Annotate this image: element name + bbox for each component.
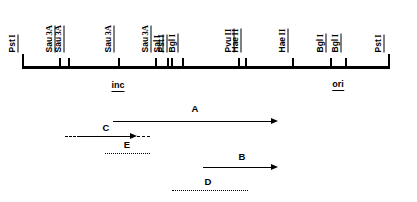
enzyme-numeral: I (315, 33, 325, 38)
enzyme-label: PstI (157, 34, 168, 52)
enzyme-label: BglI (331, 33, 342, 52)
enzyme-numeral: I (7, 34, 17, 39)
restriction-site-tick (22, 54, 24, 69)
enzyme-numeral: 3A (103, 25, 113, 37)
gene-region-label-inc: inc (111, 80, 124, 92)
transcript-label-c: C (103, 123, 110, 133)
transcript-segment-c (80, 136, 131, 137)
restriction-site-tick (167, 58, 169, 69)
enzyme-numeral: I (156, 34, 166, 39)
enzyme-label: PstI (374, 34, 385, 52)
transcript-segment-a (113, 121, 272, 122)
enzyme-numeral: I (167, 33, 177, 38)
restriction-site-tick (388, 54, 390, 69)
restriction-site-tick (68, 58, 70, 69)
enzyme-label: Sau3A (104, 25, 115, 52)
enzyme-numeral: 3A (140, 25, 150, 37)
enzyme-name: Sau (103, 36, 113, 52)
enzyme-label: Sau3A (54, 25, 65, 52)
enzyme-name: Pst (156, 39, 166, 52)
restriction-site-tick (182, 58, 184, 69)
enzyme-name: Pst (7, 39, 17, 52)
restriction-site-tick (238, 58, 240, 69)
restriction-site-tick (155, 58, 157, 69)
transcript-segment-d (172, 190, 248, 191)
transcript-arrowhead-b (271, 164, 278, 170)
enzyme-name: Bgl (330, 38, 340, 52)
transcript-arrowhead-a (271, 118, 278, 124)
restriction-site-tick (118, 58, 120, 69)
enzyme-name: Pst (373, 39, 383, 52)
restriction-site-tick (171, 58, 173, 69)
gene-region-label-ori: ori (332, 79, 344, 91)
enzyme-numeral: 3A (53, 25, 63, 37)
transcript-label-a: A (192, 104, 199, 114)
transcript-segment-c (65, 136, 80, 137)
transcript-arrowhead-c (130, 133, 137, 139)
restriction-map-axis (22, 66, 388, 69)
restriction-site-tick (245, 58, 247, 69)
enzyme-label: HaeII (278, 28, 289, 52)
enzyme-name: Sau (140, 36, 150, 52)
transcript-label-e: E (124, 140, 130, 150)
restriction-site-tick (59, 58, 61, 69)
enzyme-name: Bgl (315, 38, 325, 52)
restriction-site-tick (292, 58, 294, 69)
enzyme-label: PstI (8, 34, 19, 52)
transcript-segment-e (105, 153, 150, 154)
enzyme-name: Bgl (167, 38, 177, 52)
enzyme-numeral: II (277, 28, 287, 36)
enzyme-label: Sau3A (141, 25, 152, 52)
enzyme-numeral: I (373, 34, 383, 39)
enzyme-label: BglI (168, 33, 179, 52)
restriction-site-tick (345, 58, 347, 69)
enzyme-numeral: II (230, 28, 240, 36)
enzyme-name: Hae (277, 36, 287, 52)
transcript-segment-c (137, 136, 150, 137)
enzyme-numeral: I (330, 33, 340, 38)
transcript-label-d: D (205, 177, 212, 187)
enzyme-name: Hae (230, 36, 240, 52)
restriction-site-tick (330, 58, 332, 69)
transcript-label-b: B (239, 152, 246, 162)
transcript-segment-b (203, 167, 272, 168)
restriction-map-figure: PstISau3ASau3ASau3ASau3ASalIPstIBglIPvuI… (0, 0, 417, 202)
enzyme-label: HaeII (231, 28, 242, 52)
enzyme-label: BglI (316, 33, 327, 52)
enzyme-name: Sau (53, 36, 63, 52)
